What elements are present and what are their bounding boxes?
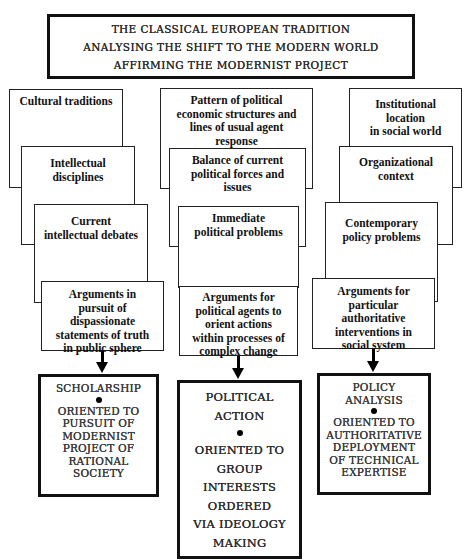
policy-arguments-box: Arguments for particular authoritative i… [312,278,435,349]
policy-outcome-description: ORIENTED TO AUTHORITATIVE DEPLOYMENT OF … [320,416,428,479]
policy-tier-1-text: Institutional location in social world [350,98,461,139]
political-arguments-text: Arguments for political agents to orient… [180,291,297,359]
political-tier-3-text: Immediate political problems [179,212,298,239]
policy-outcome-box: POLICY ANALYSIS ORIENTED TO AUTHORITATIV… [317,373,431,495]
scholarship-outcome-title: SCHOLARSHIP [41,382,156,395]
political-outcome-title: POLITICAL ACTION [180,388,299,425]
diagram-canvas: THE CLASSICAL EUROPEAN TRADITION ANALYSI… [0,0,464,560]
header-line-1: THE CLASSICAL EUROPEAN TRADITION [112,20,351,38]
header-box: THE CLASSICAL EUROPEAN TRADITION ANALYSI… [47,14,415,79]
political-outcome-box: POLITICAL ACTION ORIENTED TO GROUP INTER… [177,380,302,559]
policy-tier-3-text: Contemporary policy problems [326,217,437,244]
political-tier-3-box: Immediate political problems [178,206,299,288]
political-outcome-description: ORIENTED TO GROUP INTERESTS ORDERED VIA … [180,441,299,552]
header-line-3: AFFIRMING THE MODERNIST PROJECT [114,56,348,74]
scholarship-arguments-text: Arguments in pursuit of dispassionate st… [42,288,163,356]
scholarship-outcome-box: SCHOLARSHIP ORIENTED TO PURSUIT OF MODER… [38,374,159,497]
political-tier-2-text: Balance of current political forces and … [170,154,305,195]
political-tier-1-text: Pattern of political economic structures… [161,94,312,148]
scholarship-outcome-description: ORIENTED TO PURSUIT OF MODERNIST PROJECT… [41,405,156,480]
bullet-dot-icon [371,408,377,414]
bullet-dot-icon [96,397,102,403]
policy-tier-2-text: Organizational context [340,156,452,183]
policy-outcome-title: POLICY ANALYSIS [320,381,428,406]
policy-arguments-text: Arguments for particular authoritative i… [313,285,434,353]
scholarship-tier-2-text: Intellectual disciplines [22,157,134,184]
header-line-2: ANALYSING THE SHIFT TO THE MODERN WORLD [83,38,378,56]
bullet-dot-icon [237,430,243,436]
scholarship-tier-3-text: Current intellectual debates [35,215,147,242]
scholarship-arguments-box: Arguments in pursuit of dispassionate st… [41,281,164,351]
scholarship-tier-1-text: Cultural traditions [10,95,122,109]
political-arguments-box: Arguments for political agents to orient… [179,286,298,356]
